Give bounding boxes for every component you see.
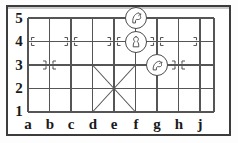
piece-g3[interactable]	[146, 54, 168, 76]
file-label-c: c	[63, 117, 79, 132]
file-label-g: g	[149, 117, 165, 132]
piece-f4[interactable]	[125, 31, 147, 53]
file-label-f: f	[128, 117, 144, 132]
pawn-icon	[126, 32, 146, 52]
piece-f5[interactable]	[125, 7, 147, 29]
horse-icon	[147, 55, 167, 75]
file-label-b: b	[42, 117, 58, 132]
file-label-h: h	[171, 117, 187, 132]
file-label-d: d	[85, 117, 101, 132]
rank-label-5: 5	[11, 11, 27, 26]
frame-highlight-line	[8, 7, 229, 9]
horse-icon	[126, 8, 146, 28]
rank-label-2: 2	[11, 81, 27, 96]
rank-label-3: 3	[11, 58, 27, 73]
file-label-e: e	[106, 117, 122, 132]
xiangqi-board-diagram: 5 4 3 2 1 a b c d e f g h j	[0, 0, 238, 143]
file-label-j: j	[192, 117, 208, 132]
rank-label-4: 4	[11, 34, 27, 49]
file-label-a: a	[20, 117, 36, 132]
